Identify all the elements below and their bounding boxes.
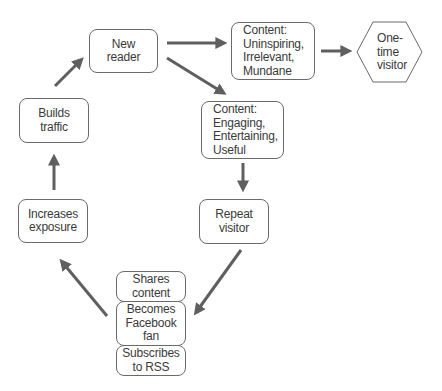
node-repeat-visitor-line-2: visitor (219, 222, 249, 236)
node-new-reader: New reader (89, 29, 158, 73)
node-content-uninspiring-line-4: Mundane (243, 65, 292, 79)
node-content-uninspiring-line-3: Irrelevant, (243, 51, 294, 65)
node-one-time-visitor: One- time visitor (377, 32, 407, 73)
arrow-builds-traffic-to-new-reader (55, 61, 80, 86)
blog-reader-cycle-diagram: New reader Content: Uninspiring, Irrelev… (0, 0, 442, 391)
node-increases-exposure: Increases exposure (18, 199, 88, 243)
node-content-engaging-line-1: Content: (213, 103, 257, 117)
node-increases-exposure-line-2: exposure (29, 221, 77, 235)
node-content-engaging-line-3: Entertaining, (213, 130, 278, 144)
node-repeat-visitor-line-1: Repeat (215, 208, 253, 222)
node-one-time-visitor-line-1: One- (377, 32, 407, 46)
node-builds-traffic-line-2: traffic (40, 121, 68, 135)
node-content-engaging-line-4: Useful (213, 144, 246, 158)
node-repeat-visitor: Repeat visitor (199, 199, 269, 244)
node-shares-content: Shares content (116, 271, 186, 302)
node-subscribes-rss-line-1: Subscribes (122, 347, 179, 361)
node-content-engaging: Content: Engaging, Entertaining, Useful (201, 101, 284, 159)
node-becomes-facebook-fan-line-3: fan (143, 330, 159, 344)
arrow-new-reader-to-content-good (167, 58, 222, 92)
arrows-layer (0, 0, 442, 391)
node-one-time-visitor-line-3: visitor (377, 59, 407, 73)
node-becomes-facebook-fan-line-2: Facebook (125, 317, 176, 331)
node-one-time-visitor-line-2: time (377, 46, 407, 60)
node-content-uninspiring: Content: Uninspiring, Irrelevant, Mundan… (231, 22, 315, 80)
node-subscribes-rss: Subscribes to RSS (116, 345, 186, 376)
node-content-uninspiring-line-1: Content: (243, 24, 287, 38)
node-increases-exposure-line-1: Increases (28, 208, 78, 222)
node-new-reader-line-1: New (112, 38, 135, 52)
node-subscribes-rss-line-2: to RSS (133, 361, 170, 375)
node-shares-content-line-1: Shares (133, 273, 170, 287)
node-becomes-facebook-fan: Becomes Facebook fan (116, 301, 186, 346)
arrow-repeat-visitor-to-actions (197, 250, 241, 311)
arrow-actions-to-increases-exposure (63, 263, 107, 316)
node-content-uninspiring-line-2: Uninspiring, (243, 38, 304, 52)
node-shares-content-line-2: content (132, 287, 170, 301)
node-builds-traffic-line-1: Builds (38, 107, 69, 121)
node-becomes-facebook-fan-line-1: Becomes (127, 303, 176, 317)
node-new-reader-line-2: reader (107, 51, 141, 65)
node-builds-traffic: Builds traffic (19, 98, 89, 143)
node-content-engaging-line-2: Engaging, (213, 117, 265, 131)
